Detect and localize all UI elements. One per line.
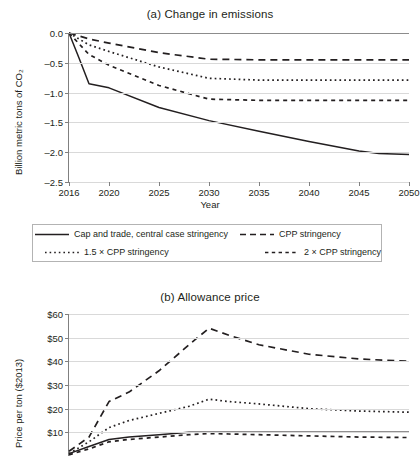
legend-item-cpp-stringency[interactable]: CPP stringency	[240, 229, 385, 239]
legend-label-cpp-stringency: CPP stringency	[279, 229, 341, 239]
legend-item-1.5x-cpp-stringency[interactable]: 1.5 × CPP stringency	[35, 247, 240, 257]
y-axis-tick-label: –1.0	[45, 87, 64, 98]
legend-label-2x-cpp-stringency: 2 × CPP stringency	[304, 247, 381, 257]
panel-b-title: (b) Allowance price	[0, 291, 420, 303]
panel-a-title: (a) Change in emissions	[0, 8, 420, 20]
gridline	[69, 314, 409, 315]
y-axis-tick-label: $40	[47, 356, 63, 367]
legend-line-dash-icon	[265, 248, 299, 257]
y-axis-tick-mark	[65, 93, 69, 94]
y-axis-tick-mark	[65, 361, 69, 362]
gridline	[69, 122, 409, 123]
series-line	[69, 33, 409, 155]
gridline	[69, 33, 409, 34]
x-axis-tick-label: 2016	[58, 187, 79, 198]
panel-a-plot-area: 0.0–0.5–1.0–1.5–2.0–2.520162020202520302…	[69, 33, 409, 182]
x-axis-tick-mark	[259, 182, 260, 186]
x-axis-tick-label: 2025	[148, 187, 169, 198]
gridline	[69, 152, 409, 153]
y-axis-tick-label: –0.5	[45, 57, 64, 68]
y-axis-tick-mark	[65, 122, 69, 123]
y-axis-tick-mark	[65, 338, 69, 339]
series-line	[69, 33, 409, 60]
panel-b-allowance-price: (b) Allowance price Price per ton ($2013…	[0, 268, 420, 456]
y-axis-tick-mark	[65, 152, 69, 153]
x-axis-tick-mark	[109, 182, 110, 186]
x-axis-tick-label: 2040	[298, 187, 319, 198]
series-line	[69, 399, 409, 453]
series-line	[69, 33, 409, 80]
x-axis-tick-mark	[209, 182, 210, 186]
x-axis-tick-label: 2045	[348, 187, 369, 198]
gridline	[69, 432, 409, 433]
gridline	[69, 385, 409, 386]
x-axis-tick-mark	[69, 182, 70, 186]
y-axis-tick-mark	[65, 385, 69, 386]
x-axis-tick-mark	[309, 182, 310, 186]
gridline	[69, 93, 409, 94]
gridline	[69, 63, 409, 64]
y-axis-tick-label: $30	[47, 380, 63, 391]
panel-b-plot-area: $60$50$40$30$20$10	[69, 314, 409, 456]
gridline	[69, 409, 409, 410]
y-axis-tick-mark	[65, 432, 69, 433]
legend-line-long-dash-icon	[240, 230, 274, 239]
panel-a-x-axis-label: Year	[0, 199, 420, 210]
x-axis-tick-label: 2050	[398, 187, 419, 198]
legend-label-cap-and-trade: Cap and trade, central case stringency	[74, 229, 228, 239]
gridline	[69, 338, 409, 339]
y-axis-tick-mark	[65, 409, 69, 410]
gridline	[69, 182, 409, 183]
legend-line-solid-icon	[35, 230, 69, 239]
gridline	[69, 361, 409, 362]
series-line	[69, 434, 409, 455]
y-axis-tick-label: $20	[47, 403, 63, 414]
figure-container: (a) Change in emissions Billion metric t…	[0, 0, 420, 456]
panel-a-series-lines	[69, 33, 409, 182]
y-axis-tick-mark	[65, 33, 69, 34]
x-axis-tick-label: 2030	[198, 187, 219, 198]
x-axis-tick-mark	[409, 182, 410, 186]
chart-legend: Cap and trade, central case stringency C…	[32, 224, 382, 262]
panel-b-y-axis-label: Price per ton ($2013)	[13, 359, 24, 448]
legend-item-2x-cpp-stringency[interactable]: 2 × CPP stringency	[240, 247, 385, 257]
x-axis-tick-label: 2035	[248, 187, 269, 198]
series-line	[69, 33, 409, 100]
y-axis-tick-label: 0.0	[50, 28, 63, 39]
y-axis-tick-label: $10	[47, 427, 63, 438]
y-axis-tick-label: –2.0	[45, 147, 64, 158]
y-axis-tick-mark	[65, 314, 69, 315]
panel-a-change-in-emissions: (a) Change in emissions Billion metric t…	[0, 0, 420, 218]
x-axis-tick-label: 2020	[98, 187, 119, 198]
legend-label-1.5x-cpp-stringency: 1.5 × CPP stringency	[84, 247, 169, 257]
panel-a-y-axis-label: Billion metric tons of CO₂	[13, 69, 24, 175]
x-axis-tick-mark	[159, 182, 160, 186]
y-axis-tick-label: –2.5	[45, 177, 64, 188]
y-axis-tick-label: –1.5	[45, 117, 64, 128]
x-axis-tick-mark	[359, 182, 360, 186]
y-axis-tick-label: $60	[47, 309, 63, 320]
legend-line-dotted-icon	[45, 248, 79, 257]
y-axis-tick-mark	[65, 63, 69, 64]
y-axis-tick-label: $50	[47, 332, 63, 343]
series-line	[69, 432, 409, 453]
legend-item-cap-and-trade[interactable]: Cap and trade, central case stringency	[35, 229, 240, 239]
